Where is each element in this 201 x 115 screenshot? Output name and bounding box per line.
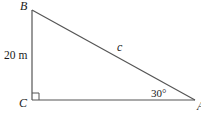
vertex-label-b: B [20, 0, 28, 13]
side-label-bc: 20 m [4, 49, 27, 61]
vertex-label-c: C [19, 96, 28, 110]
side-label-ab: c [117, 40, 123, 54]
triangle-diagram: B C A 20 m c 30° [0, 0, 201, 115]
angle-label-a: 30° [151, 87, 166, 99]
side-ab-hypotenuse [32, 10, 195, 100]
vertex-label-a: A [196, 99, 201, 113]
right-angle-marker [32, 93, 39, 100]
